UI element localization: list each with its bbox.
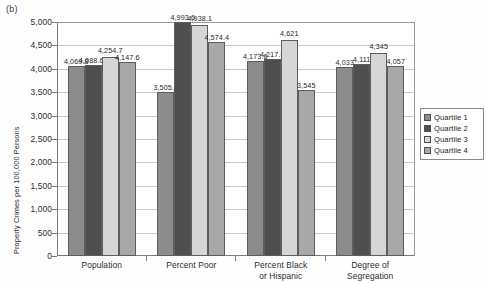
bar-value-label: 4,938.1: [187, 14, 212, 23]
y-axis-tick-mark: [52, 256, 57, 257]
y-axis-tick-mark: [52, 233, 57, 234]
y-axis-tick-label: 2,000: [6, 157, 52, 167]
bar-chart: (b) Property Crimes per 100,000 Persons …: [0, 0, 486, 283]
bar[interactable]: 4,254.7: [102, 57, 119, 256]
bar-value-label: 3,545: [297, 81, 316, 90]
x-axis-category-label: Percent Poor: [147, 260, 237, 283]
bar-value-label: 4,574.4: [204, 33, 229, 42]
bar[interactable]: 4,173.6: [247, 61, 264, 256]
bar[interactable]: 4,938.1: [191, 25, 208, 256]
bar-group: 4,069.84,088.694,254.74,147.6: [57, 22, 147, 256]
legend-item[interactable]: Quartile 2: [424, 123, 481, 134]
legend-item-label: Quartile 4: [434, 146, 468, 155]
bar-group: 3,505.14,993.64,938.14,574.4: [147, 22, 237, 256]
y-axis-tick-label: 2,500: [6, 134, 52, 144]
legend-item[interactable]: Quartile 1: [424, 112, 481, 123]
bar-value-label: 4,057: [387, 57, 406, 66]
y-axis-tick-mark: [52, 116, 57, 117]
y-axis-tick-label: 4,000: [6, 64, 52, 74]
bar[interactable]: 4,057: [387, 66, 404, 256]
bar-value-label: 4,033: [336, 58, 355, 67]
y-axis-tick-mark: [52, 162, 57, 163]
y-axis-tick-label: 1,000: [6, 204, 52, 214]
bar-value-label: 4,111: [353, 55, 370, 64]
y-axis-tick-mark: [52, 45, 57, 46]
y-axis-tick-label: 1,500: [6, 181, 52, 191]
x-axis-category-label: Population: [57, 260, 147, 283]
chart-legend: Quartile 1Quartile 2Quartile 3Quartile 4: [420, 108, 484, 160]
legend-item[interactable]: Quartile 3: [424, 134, 481, 145]
legend-item-label: Quartile 1: [434, 113, 468, 122]
bar[interactable]: 4,033: [336, 67, 353, 256]
bar-value-label: 4,147.6: [115, 53, 140, 62]
bar[interactable]: 3,545: [298, 90, 315, 256]
legend-color-swatch: [424, 147, 431, 154]
legend-item-label: Quartile 3: [434, 135, 468, 144]
y-axis-tick-label: 3,000: [6, 111, 52, 121]
y-axis-tick-mark: [52, 209, 57, 210]
panel-label: (b): [6, 4, 18, 14]
bar[interactable]: 4,217.6: [264, 59, 281, 256]
bar-group-bars: 4,0334,1114,3454,057: [326, 22, 416, 256]
x-axis-category-label: Degree ofSegregation: [326, 260, 416, 283]
y-axis-tick-label: 3,500: [6, 87, 52, 97]
bar-value-label: 4,621: [280, 29, 299, 38]
bar[interactable]: 4,147.6: [119, 62, 136, 256]
bar-group: 4,173.64,217.64,6213,545: [236, 22, 326, 256]
x-axis-category-label: Percent Blackor Hispanic: [236, 260, 326, 283]
bar[interactable]: 4,069.8: [68, 66, 85, 256]
x-axis-category-labels: PopulationPercent PoorPercent Blackor Hi…: [57, 260, 415, 283]
bar-group: 4,0334,1114,3454,057: [326, 22, 416, 256]
y-axis-tick-mark: [52, 92, 57, 93]
y-axis-tick-mark: [52, 69, 57, 70]
bar[interactable]: 4,345: [370, 53, 387, 256]
bar[interactable]: 4,574.4: [208, 42, 225, 256]
bar[interactable]: 3,505.1: [157, 92, 174, 256]
legend-color-swatch: [424, 136, 431, 143]
y-axis-tick-mark: [52, 186, 57, 187]
y-axis-tick-label: 4,500: [6, 40, 52, 50]
bar-groups: 4,069.84,088.694,254.74,147.63,505.14,99…: [57, 22, 415, 256]
bar-group-bars: 4,173.64,217.64,6213,545: [236, 22, 326, 256]
bar[interactable]: 4,111: [353, 64, 370, 256]
bar[interactable]: 4,993.6: [174, 22, 191, 256]
bar-group-bars: 4,069.84,088.694,254.74,147.6: [57, 22, 147, 256]
y-axis-tick-label: 5,000: [6, 17, 52, 27]
legend-color-swatch: [424, 125, 431, 132]
legend-item[interactable]: Quartile 4: [424, 145, 481, 156]
bar[interactable]: 4,621: [281, 40, 298, 256]
legend-item-label: Quartile 2: [434, 124, 468, 133]
y-axis-tick-mark: [52, 22, 57, 23]
y-axis-tick-label: 500: [6, 228, 52, 238]
bar-group-bars: 3,505.14,993.64,938.14,574.4: [147, 22, 237, 256]
bar-value-label: 4,345: [370, 42, 389, 51]
legend-color-swatch: [424, 114, 431, 121]
y-axis-tick-mark: [52, 139, 57, 140]
bar[interactable]: 4,088.69: [85, 65, 102, 256]
y-axis-tick-labels: 05001,0001,5002,0002,5003,0003,5004,0004…: [0, 22, 52, 256]
y-axis-tick-label: 0: [6, 251, 52, 261]
